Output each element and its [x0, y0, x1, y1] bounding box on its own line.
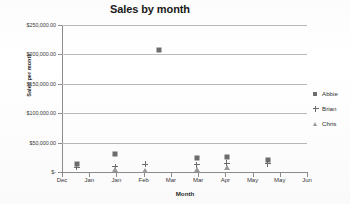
- plot-area: [62, 25, 307, 172]
- y-tick-label: $150,000.00: [0, 81, 56, 87]
- data-point-brian: [74, 164, 80, 170]
- x-axis-line: [62, 172, 308, 173]
- legend-item-abbie[interactable]: Abbie: [312, 86, 350, 101]
- data-point-brian: [142, 161, 148, 167]
- data-point-abbie: [224, 155, 229, 160]
- triangle-marker-icon: [312, 120, 320, 128]
- legend-item-label: Abbie: [322, 90, 338, 97]
- x-tick-label: Jun: [290, 177, 324, 183]
- y-tick-label: $100,000.00: [0, 110, 56, 116]
- data-point-abbie: [113, 152, 118, 157]
- data-point-chris: [142, 168, 148, 173]
- chart-title: Sales by month: [0, 3, 300, 15]
- legend-item-brian[interactable]: Brian: [312, 101, 350, 116]
- legend-item-label: Brian: [322, 105, 336, 112]
- data-point-abbie: [194, 155, 199, 160]
- sales-by-month-chart: Sales by month Sales per month Month $25…: [0, 0, 350, 204]
- y-tick-label: $250,000.00: [0, 22, 56, 28]
- legend-item-label: Chris: [322, 120, 336, 127]
- x-axis-title: Month: [62, 190, 308, 197]
- y-tick-label: $-: [0, 169, 56, 175]
- gridline: [62, 113, 307, 114]
- data-point-chris: [112, 167, 118, 172]
- data-point-brian: [265, 161, 271, 167]
- y-tick-label: $200,000.00: [0, 51, 56, 57]
- chart-legend: AbbieBrianChris: [312, 86, 350, 131]
- gridline: [62, 54, 307, 55]
- gridline: [62, 143, 307, 144]
- square-marker-icon: [312, 90, 320, 98]
- gridline: [62, 84, 307, 85]
- data-point-chris: [194, 167, 200, 172]
- y-axis-title: Sales per month: [26, 30, 32, 120]
- gridline: [62, 25, 307, 26]
- data-point-chris: [224, 165, 230, 170]
- y-tick-label: $50,000.00: [0, 140, 56, 146]
- plus-marker-icon: [312, 105, 320, 113]
- legend-item-chris[interactable]: Chris: [312, 116, 350, 131]
- data-point-abbie: [156, 47, 161, 52]
